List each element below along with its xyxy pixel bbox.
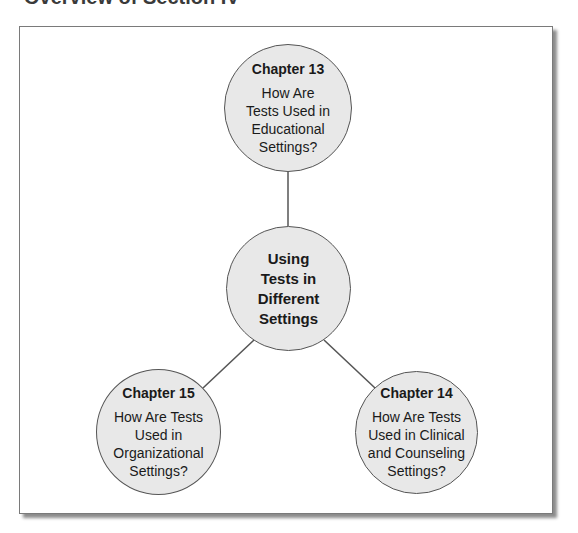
chapter-label: Chapter 15 bbox=[122, 385, 194, 401]
chapter-question-line: Used in Clinical bbox=[368, 426, 464, 444]
center-line: Settings bbox=[259, 309, 318, 329]
node-chapter-14: Chapter 14 How Are Tests Used in Clinica… bbox=[355, 371, 478, 494]
connector-bottom-left bbox=[203, 340, 254, 388]
chapter-question-line: How Are bbox=[262, 84, 315, 102]
chapter-question-line: Settings? bbox=[129, 462, 187, 480]
center-line: Using bbox=[268, 249, 310, 269]
chapter-label: Chapter 14 bbox=[380, 385, 452, 401]
chapter-question-line: How Are Tests bbox=[372, 408, 461, 426]
node-central-topic: Using Tests in Different Settings bbox=[226, 226, 351, 351]
chapter-question-line: How Are Tests bbox=[114, 408, 203, 426]
chapter-question-line: Settings? bbox=[387, 462, 445, 480]
chapter-question-line: Organizational bbox=[113, 444, 203, 462]
connector-bottom-right bbox=[324, 340, 375, 388]
center-line: Tests in bbox=[261, 269, 317, 289]
chapter-question-line: and Counseling bbox=[368, 444, 465, 462]
chapter-question-line: Used in bbox=[135, 426, 182, 444]
chapter-question-line: Settings? bbox=[259, 138, 317, 156]
chapter-question-line: Educational bbox=[251, 120, 324, 138]
node-chapter-15: Chapter 15 How Are Tests Used in Organiz… bbox=[96, 369, 221, 495]
chapter-label: Chapter 13 bbox=[252, 61, 324, 77]
center-line: Different bbox=[258, 289, 320, 309]
chapter-question-line: Tests Used in bbox=[246, 102, 330, 120]
node-chapter-13: Chapter 13 How Are Tests Used in Educati… bbox=[224, 44, 352, 172]
